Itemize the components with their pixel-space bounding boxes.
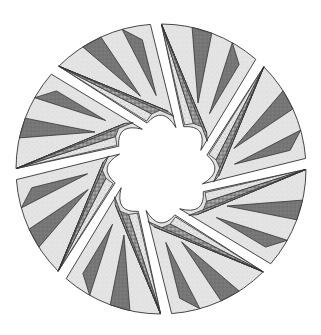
segments-group bbox=[16, 24, 306, 314]
quilt-block bbox=[0, 0, 321, 335]
